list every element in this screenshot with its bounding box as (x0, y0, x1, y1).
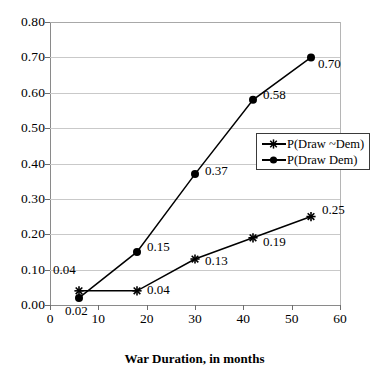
x-axis-tick-label: 10 (83, 312, 113, 326)
series-line (79, 217, 311, 291)
legend-item-p-draw-not-dem: P(Draw ~Dem) (261, 136, 369, 152)
x-axis-tick-label: 40 (228, 312, 258, 326)
data-point-label: 0.15 (147, 240, 170, 253)
x-axis-tick (292, 305, 293, 310)
y-axis-tick-label: 0.10 (5, 263, 45, 277)
chart-legend: P(Draw ~Dem) P(Draw Dem) (256, 133, 370, 170)
data-point-label: 0.13 (205, 254, 228, 267)
y-axis-tick-label: 0.30 (5, 192, 45, 206)
x-axis-title: War Duration, in months (0, 352, 389, 366)
y-axis-tick-label: 0.00 (5, 298, 45, 312)
y-axis-tick-label: 0.60 (5, 86, 45, 100)
star-marker-icon (132, 286, 141, 295)
circle-marker-icon (261, 153, 287, 167)
x-axis-tick (98, 305, 99, 310)
x-axis-tick-label: 30 (180, 312, 210, 326)
star-marker-icon (190, 254, 199, 263)
circle-marker-icon (133, 248, 141, 256)
y-axis-tick-label: 0.50 (5, 121, 45, 135)
y-axis-tick-label: 0.20 (5, 227, 45, 241)
x-axis-tick-label: 60 (325, 312, 355, 326)
data-point-label: 0.25 (322, 203, 345, 216)
data-point-label: 0.02 (65, 304, 88, 317)
circle-marker-icon (75, 294, 83, 302)
x-axis-tick (50, 305, 51, 310)
data-point-label: 0.37 (205, 164, 228, 177)
circle-marker-icon (249, 96, 257, 104)
x-axis-tick-label: 50 (277, 312, 307, 326)
y-axis-tick-label: 0.70 (5, 50, 45, 64)
circle-marker-icon (307, 53, 315, 61)
y-axis-tick-label: 0.40 (5, 157, 45, 171)
line-chart: 0.000.100.200.300.400.500.600.700.80 010… (0, 0, 389, 376)
data-point-label: 0.70 (318, 57, 341, 70)
legend-label: P(Draw ~Dem) (287, 138, 364, 151)
circle-marker-icon (191, 170, 199, 178)
x-axis-tick (147, 305, 148, 310)
legend-item-p-draw-dem: P(Draw Dem) (261, 152, 369, 168)
y-axis-tick-label: 0.80 (5, 15, 45, 29)
x-axis-tick (195, 305, 196, 310)
x-axis-tick-label: 0 (35, 312, 65, 326)
data-point-label: 0.19 (263, 235, 286, 248)
x-axis-tick-label: 20 (132, 312, 162, 326)
data-point-label: 0.04 (53, 263, 76, 276)
data-point-label: 0.04 (147, 283, 170, 296)
star-marker-icon (261, 137, 287, 151)
star-marker-icon (248, 233, 257, 242)
star-marker-icon (306, 212, 315, 221)
x-axis-tick (243, 305, 244, 310)
data-point-label: 0.58 (263, 88, 286, 101)
legend-label: P(Draw Dem) (287, 154, 357, 167)
x-axis-tick (340, 305, 341, 310)
